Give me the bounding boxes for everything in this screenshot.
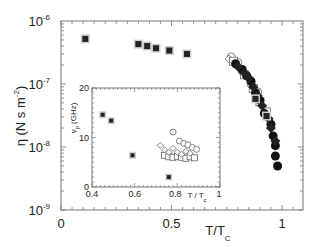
x-axis-label: T/TC [205, 223, 231, 243]
inset-x-tick-label: 0.6 [128, 189, 141, 199]
x-tick-label: 0.5 [162, 216, 180, 231]
filled-square-marker [264, 113, 270, 119]
y-tick-label: 10-7 [28, 76, 50, 92]
open-square-marker [191, 155, 197, 161]
filled-square-marker [184, 51, 190, 57]
filled-square-marker [131, 153, 135, 157]
inset-x-tick-label: 1 [216, 189, 221, 199]
inset-y-axis-label-unit: (GHz) [69, 102, 78, 124]
chart-canvas: 00.5110-610-710-810-9T/TCη (N s m-2)0.40… [0, 0, 321, 247]
filled-square-marker [144, 43, 150, 49]
inset-y-tick-label: 10 [79, 133, 89, 143]
filled-square-marker [82, 36, 88, 42]
y-tick-exponent: -7 [43, 76, 51, 85]
y-tick-exponent: -9 [43, 202, 51, 211]
filled-square-marker [166, 48, 172, 54]
y-tick-exponent: -6 [43, 13, 51, 22]
x-axis-label-sub: C [225, 234, 231, 243]
y-tick-label: 10-9 [28, 202, 50, 218]
filled-square-marker [252, 96, 258, 102]
filled-square-marker [153, 45, 159, 51]
y-axis-label: η (N s m-2) [12, 86, 28, 147]
y-tick-label: 10-6 [28, 13, 50, 29]
inset-x-tick-label: 0.8 [169, 189, 182, 199]
y-tick-exponent: -8 [43, 139, 51, 148]
x-tick-label: 0 [57, 216, 64, 231]
inset-x-axis-label: T / Tc [187, 191, 206, 203]
open-circle-marker [170, 129, 176, 135]
filled-square-marker [109, 119, 113, 123]
y-tick-label: 10-8 [28, 139, 50, 155]
filled-square-marker [167, 175, 171, 179]
filled-square-marker [101, 113, 105, 117]
inset-frame [92, 88, 220, 187]
y-axis-label-close: ) [13, 86, 28, 90]
inset-plot [92, 88, 220, 187]
inset-y-axis-label-sub: p [74, 125, 80, 129]
inset-x-axis-label-sub: c [204, 197, 207, 203]
filled-circle-marker [273, 161, 282, 170]
inset-y-tick-label: 20 [79, 83, 89, 93]
inset-y-tick-label: 0 [84, 182, 89, 192]
filled-square-marker [135, 41, 141, 47]
filled-circle-marker [271, 151, 280, 160]
open-circle-marker [194, 146, 200, 152]
inset-y-axis-label: νp(GHz) [69, 102, 80, 133]
x-tick-label: 1 [278, 216, 285, 231]
